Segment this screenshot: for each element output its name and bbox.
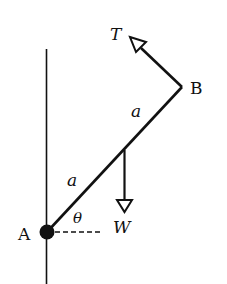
rod-ab <box>47 87 182 232</box>
weight-arrow-icon <box>117 150 132 212</box>
label-tension: T <box>110 24 123 44</box>
label-half-length-upper: a <box>131 101 141 121</box>
label-angle-theta: θ <box>73 209 82 227</box>
label-weight: W <box>113 217 132 237</box>
label-point-a: A <box>17 224 31 244</box>
label-point-b: B <box>190 78 203 98</box>
tension-arrow-icon <box>130 37 182 87</box>
diagram-canvas: A B T W a a θ <box>0 0 227 284</box>
label-half-length-lower: a <box>67 170 77 190</box>
hinge-point-a <box>40 225 55 240</box>
